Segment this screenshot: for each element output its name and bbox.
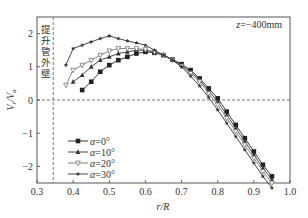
star-marker bbox=[89, 40, 93, 44]
legend-label: α=10° bbox=[90, 147, 115, 158]
square-marker bbox=[76, 139, 81, 144]
legend: α=0°α=10°α=20°α=30° bbox=[68, 136, 115, 180]
y-tick-label: −2 bbox=[22, 161, 33, 172]
square-marker bbox=[125, 55, 130, 60]
x-tick-label: 0.8 bbox=[211, 186, 224, 197]
triangle-up-marker bbox=[89, 64, 94, 69]
triangle-up-marker bbox=[71, 79, 76, 84]
star-marker bbox=[71, 46, 75, 50]
star-marker bbox=[80, 43, 84, 47]
square-marker bbox=[107, 63, 112, 68]
square-marker bbox=[89, 79, 94, 84]
square-marker bbox=[80, 88, 85, 93]
reference-lines: 提升管外壁z=−400mm bbox=[37, 17, 290, 183]
z-annotation: z=−400mm bbox=[235, 19, 282, 30]
y-tick-label: 0 bbox=[28, 95, 33, 106]
square-marker bbox=[116, 58, 121, 63]
x-tick-label: 1.0 bbox=[284, 186, 297, 197]
y-tick-label: 1 bbox=[28, 61, 33, 72]
triangle-down-marker bbox=[64, 83, 69, 88]
line-chart: 0.30.40.50.60.70.80.91.0210−1−2 提升管外壁z=−… bbox=[0, 0, 308, 218]
x-tick-label: 0.4 bbox=[67, 186, 80, 197]
square-marker bbox=[98, 69, 103, 74]
y-tick-label: −1 bbox=[22, 128, 33, 139]
x-tick-label: 0.6 bbox=[139, 186, 152, 197]
x-axis-label: r/R bbox=[157, 201, 170, 212]
x-tick-label: 0.5 bbox=[103, 186, 116, 197]
star-marker bbox=[134, 41, 138, 45]
wall-label-char: 管 bbox=[41, 46, 51, 57]
star-marker bbox=[125, 39, 129, 43]
legend-label: α=0° bbox=[90, 136, 110, 147]
wall-label-char: 提 bbox=[41, 24, 51, 35]
star-marker bbox=[98, 36, 102, 40]
legend-label: α=20° bbox=[90, 158, 115, 169]
wall-label-char: 壁 bbox=[41, 68, 51, 79]
triangle-down-marker bbox=[71, 68, 76, 73]
y-axis-label: Vr/Va bbox=[5, 89, 18, 111]
star-marker bbox=[76, 172, 80, 176]
x-tick-label: 0.9 bbox=[248, 186, 261, 197]
x-tick-label: 0.7 bbox=[175, 186, 188, 197]
star-marker bbox=[107, 34, 111, 38]
star-marker bbox=[64, 63, 68, 67]
x-tick-label: 0.3 bbox=[31, 186, 44, 197]
y-tick-label: 2 bbox=[28, 28, 33, 39]
star-marker bbox=[116, 36, 120, 40]
wall-label-char: 外 bbox=[41, 57, 51, 68]
wall-label-char: 升 bbox=[41, 35, 51, 46]
legend-label: α=30° bbox=[90, 169, 115, 180]
